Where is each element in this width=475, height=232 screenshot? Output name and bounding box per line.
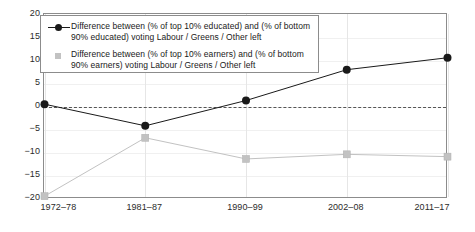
- chart-legend: Difference between (% of top 10% educate…: [40, 15, 319, 73]
- data-point-marker-circle: [242, 97, 250, 105]
- data-point-marker-circle: [41, 100, 49, 108]
- legend-item-educated: Difference between (% of top 10% educate…: [47, 21, 312, 43]
- y-axis-tick-label: 15: [4, 32, 40, 41]
- data-point-marker-circle: [141, 122, 149, 130]
- data-point-marker-square: [142, 134, 149, 141]
- x-axis: 1972–781981–871990–992002–082011–17: [43, 202, 447, 218]
- y-axis-tick-label: −10: [4, 147, 40, 156]
- legend-item-earners: Difference between (% of top 10% earners…: [47, 49, 312, 71]
- legend-label-earners-line2: earners) voting Labour / Greens / Other …: [91, 60, 256, 70]
- data-point-marker-square: [41, 193, 48, 200]
- series-line: [45, 138, 448, 196]
- y-axis-tick-label: −5: [4, 124, 40, 133]
- legend-marker-square-icon: [47, 50, 71, 61]
- legend-label-educated-line2: educated) voting Labour / Greens / Other…: [91, 32, 262, 42]
- legend-marker-circle-icon: [47, 22, 71, 33]
- legend-label-educated: Difference between (% of top 10% educate…: [71, 21, 312, 43]
- y-axis-tick-label: −15: [4, 170, 40, 179]
- legend-label-earners: Difference between (% of top 10% earners…: [71, 49, 312, 71]
- y-axis-tick-label: 5: [4, 78, 40, 87]
- y-axis: 20151050−5−10−15−20: [0, 13, 40, 198]
- data-point-marker-square: [243, 155, 250, 162]
- data-point-marker-square: [444, 153, 451, 160]
- data-point-marker-circle: [444, 54, 452, 62]
- y-axis-tick-label: 10: [4, 55, 40, 64]
- x-axis-tick-label: 2011–17: [370, 202, 450, 213]
- data-point-marker-circle: [343, 66, 351, 74]
- x-axis-tick-label: 1981–87: [104, 202, 184, 213]
- data-point-marker-square: [343, 151, 350, 158]
- y-axis-tick-label: 20: [4, 9, 40, 18]
- chart-figure: 20151050−5−10−15−20 1972–781981–871990–9…: [0, 0, 475, 232]
- y-axis-tick-label: −20: [4, 193, 40, 202]
- y-axis-tick-label: 0: [4, 101, 40, 110]
- x-axis-tick-label: 1990–99: [205, 202, 285, 213]
